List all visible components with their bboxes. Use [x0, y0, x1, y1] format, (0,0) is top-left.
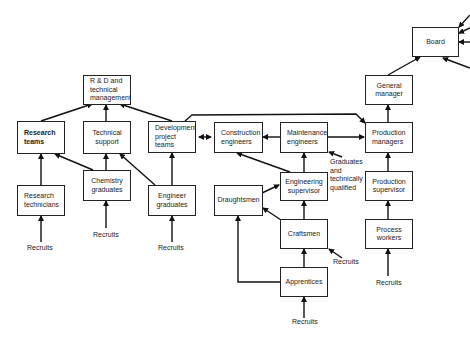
- node-label: R & D and technical management: [90, 77, 131, 103]
- node-draughtsmen: Draughtsmen: [214, 185, 263, 216]
- edge-dev-teams-to-production-managers: [185, 114, 365, 123]
- node-label: Construction engineers: [221, 129, 260, 146]
- label-recruits-craftsmen: Recruits: [333, 258, 359, 267]
- label-recruits-engineer-graduates: Recruits: [158, 244, 184, 253]
- node-maintenance-engineers: Maintenance engineers: [280, 122, 328, 153]
- node-label: Craftsmen: [288, 230, 320, 239]
- edge-eng-supervisor-to-construction: [237, 153, 290, 172]
- edge-offscreen-to-board-4: [443, 58, 470, 68]
- node-label: Engineering supervisor: [284, 178, 324, 195]
- label-recruits-chemistry-graduates: Recruits: [93, 231, 119, 240]
- node-label: Production supervisor: [369, 178, 409, 195]
- node-label: Process workers: [369, 226, 409, 243]
- edge-graduates-to-maintenance: [329, 152, 342, 157]
- node-label: Research technicians: [24, 192, 61, 209]
- node-process-workers: Process workers: [365, 219, 413, 249]
- node-development-project-teams: Development project teams: [148, 121, 196, 153]
- node-engineering-supervisor: Engineering supervisor: [280, 172, 328, 201]
- node-board: Board: [412, 27, 459, 57]
- node-general-manager: General manager: [365, 75, 413, 105]
- label-recruits-research-technicians: Recruits: [27, 244, 53, 253]
- node-label: Board: [426, 38, 445, 47]
- edge-research-teams-to-rd: [41, 104, 92, 121]
- node-chemistry-graduates: Chemistry graduates: [83, 170, 131, 201]
- node-label: Production managers: [372, 129, 409, 146]
- node-production-managers: Production managers: [365, 122, 413, 153]
- edge-chemistry-to-research-teams: [55, 154, 93, 170]
- edge-offscreen-to-board-1: [459, 15, 470, 27]
- edge-craftsmen-to-draughtsmen: [263, 208, 281, 220]
- label-recruits-process-workers: Recruits: [376, 279, 402, 288]
- node-construction-engineers: Construction engineers: [214, 122, 263, 153]
- edge-draughtsmen-to-eng-supervisor: [262, 185, 279, 193]
- node-label: Chemistry graduates: [87, 177, 127, 194]
- node-label: General manager: [369, 82, 409, 99]
- node-production-supervisor: Production supervisor: [365, 171, 413, 201]
- edge-apprentices-to-draughtsmen: [238, 216, 280, 282]
- node-label: Technical support: [87, 129, 127, 146]
- node-research-teams: Research teams: [17, 121, 65, 154]
- node-label: Maintenance engineers: [287, 129, 327, 146]
- node-craftsmen: Craftsmen: [280, 219, 328, 249]
- node-label: Draughtsmen: [217, 196, 259, 205]
- node-rd-management: R & D and technical management: [83, 75, 131, 105]
- node-label: Engineer graduates: [152, 192, 192, 209]
- node-research-technicians: Research technicians: [17, 185, 65, 216]
- edge-offscreen-to-board-2: [459, 28, 470, 33]
- node-label: Research teams: [24, 129, 61, 146]
- edge-general-manager-to-board: [388, 57, 420, 75]
- node-apprentices: Apprentices: [280, 267, 328, 297]
- label-recruits-apprentices: Recruits: [292, 318, 318, 327]
- edge-dev-teams-to-rd: [120, 104, 172, 121]
- node-label: Apprentices: [286, 278, 323, 287]
- edge-recruits-to-craftsmen: [329, 249, 342, 258]
- label-graduates-qualified: Graduates and technically qualified: [330, 158, 363, 192]
- node-label: Development project teams: [155, 124, 196, 150]
- node-technical-support: Technical support: [83, 121, 131, 154]
- node-engineer-graduates: Engineer graduates: [148, 185, 196, 216]
